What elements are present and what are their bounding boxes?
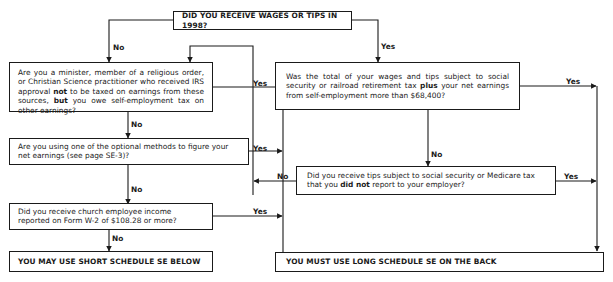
- question-text: Did you receive church employee income r…: [18, 207, 177, 225]
- long-schedule-result-box: YOU MUST USE LONG SCHEDULE SE ON THE BAC…: [275, 252, 604, 272]
- start-question-box: DID YOU RECEIVE WAGES OR TIPS IN 1998?: [173, 11, 352, 30]
- optional-no-label: No: [131, 185, 142, 194]
- emphasis-text: but: [54, 96, 68, 105]
- total-no-label: No: [431, 150, 442, 159]
- start-question-text: DID YOU RECEIVE WAGES OR TIPS IN 1998?: [182, 11, 343, 30]
- question-text: report to your employer?: [370, 180, 465, 189]
- church-yes-label: Yes: [253, 207, 267, 216]
- emphasis-text: plus: [420, 81, 437, 90]
- tips-yes-label: Yes: [564, 172, 578, 181]
- total-wages-question-box: Was the total of your wages and tips sub…: [275, 62, 520, 110]
- emphasis-text: did not: [340, 180, 370, 189]
- unreported-tips-question-box: Did you receive tips subject to social s…: [296, 166, 556, 195]
- tips-no-label: No: [277, 172, 288, 181]
- start-no-label: No: [113, 43, 124, 52]
- church-income-question-box: Did you receive church employee income r…: [9, 203, 213, 230]
- long-schedule-result-text: YOU MUST USE LONG SCHEDULE SE ON THE BAC…: [286, 257, 497, 266]
- optional-yes-label: Yes: [253, 144, 267, 153]
- minister-no-label: No: [131, 120, 142, 129]
- minister-yes-label: Yes: [253, 79, 267, 88]
- start-yes-label: Yes: [381, 42, 395, 51]
- total-yes-label: Yes: [566, 77, 580, 86]
- minister-question-box: Are you a minister, member of a religiou…: [9, 62, 213, 112]
- church-no-label: No: [112, 234, 123, 243]
- emphasis-text: not: [53, 87, 67, 96]
- optional-methods-question-box: Are you using one of the optional method…: [9, 138, 249, 165]
- short-schedule-result-text: YOU MAY USE SHORT SCHEDULE SE BELOW: [18, 257, 200, 266]
- short-schedule-result-box: YOU MAY USE SHORT SCHEDULE SE BELOW: [9, 251, 213, 272]
- question-text: Are you using one of the optional method…: [18, 142, 228, 160]
